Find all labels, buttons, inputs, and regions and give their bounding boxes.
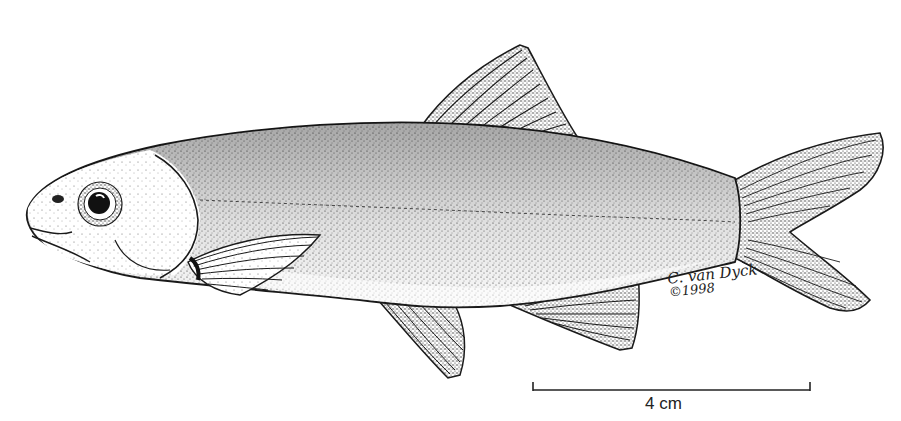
fish-illustration — [0, 0, 901, 421]
pelvic-fin — [378, 299, 465, 378]
eye — [78, 182, 122, 226]
fish-head — [28, 150, 200, 278]
scale-bar-label: 4 cm — [645, 394, 682, 414]
nostril — [52, 195, 64, 203]
scale-bar — [533, 382, 810, 391]
